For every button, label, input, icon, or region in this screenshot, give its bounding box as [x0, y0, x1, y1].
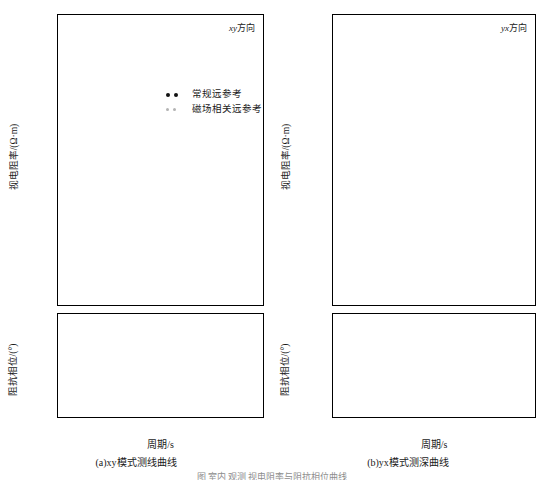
legend-swatch-black	[166, 87, 192, 102]
y-axis-title-phase-yx: 阻抗相位/(°)	[277, 320, 291, 420]
panel-tag-xy: xy方向	[229, 21, 255, 34]
figure-root: xy方向 常规远参考 磁场相关远参考 视电阻率/(Ω·m) 阻抗相位/(°) 周…	[0, 0, 544, 480]
y-axis-title-resistivity-yx: 视电阻率/(Ω·m)	[278, 97, 292, 217]
legend-swatch-gray	[166, 102, 192, 117]
legend: 常规远参考 磁场相关远参考	[166, 87, 262, 117]
phase-plot-yx	[332, 313, 536, 418]
resistivity-plot-yx: yx方向	[332, 14, 536, 306]
x-axis-title-yx: 周期/s	[332, 436, 536, 451]
legend-label-magnetic: 磁场相关远参考	[192, 102, 262, 117]
panel-xy: xy方向 常规远参考 磁场相关远参考 视电阻率/(Ω·m) 阻抗相位/(°) 周…	[0, 0, 272, 480]
legend-label-conventional: 常规远参考	[192, 87, 242, 102]
subfigure-caption-a: (a)xy模式测线曲线	[0, 454, 272, 469]
y-axis-title-resistivity-xy: 视电阻率/(Ω·m)	[6, 97, 20, 217]
x-axis-title-xy: 周期/s	[57, 436, 264, 451]
phase-plot-xy	[57, 313, 264, 418]
legend-item-magnetic: 磁场相关远参考	[166, 102, 262, 117]
subfigure-caption-b: (b)yx模式测深曲线	[272, 454, 544, 469]
figure-footer: 图 室内 观测 视电阻率与阻抗相位曲线	[0, 470, 544, 480]
legend-item-conventional: 常规远参考	[166, 87, 262, 102]
resistivity-plot-xy: xy方向 常规远参考 磁场相关远参考	[57, 14, 264, 306]
panel-tag-yx: yx方向	[501, 21, 527, 34]
panel-yx: yx方向 视电阻率/(Ω·m) 阻抗相位/(°) 周期/s (b)yx模式测深曲…	[272, 0, 544, 480]
y-axis-title-phase-xy: 阻抗相位/(°)	[5, 320, 19, 420]
